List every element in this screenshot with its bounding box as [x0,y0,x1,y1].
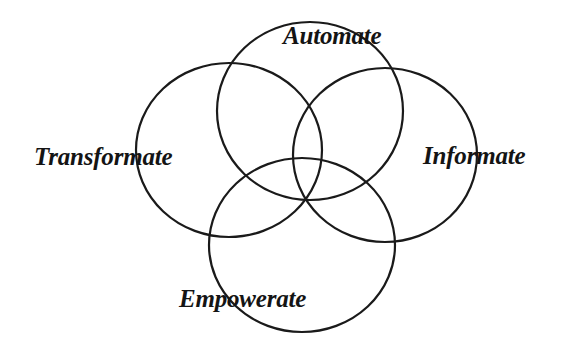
label-empowerate: Empowerate [178,285,306,312]
label-automate: Automate [281,22,382,49]
label-informate: Informate [422,142,525,169]
venn-diagram: Automate Transformate Informate Empowera… [0,0,575,347]
label-transformate: Transformate [34,143,172,170]
venn-diagram-canvas: Automate Transformate Informate Empowera… [0,0,575,347]
